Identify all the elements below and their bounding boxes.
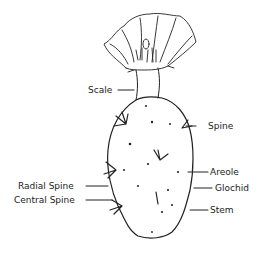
label-radial-spine: Radial Spine [18,181,74,191]
label-spine: Spine [208,121,233,131]
label-stem: Stem [210,205,234,215]
areoles [123,105,179,233]
label-central-spine: Central Spine [14,195,75,205]
flower [104,13,196,72]
ovary [136,68,160,100]
label-areole: Areole [210,167,239,177]
label-scale: Scale [88,85,112,95]
pad-outline [108,97,193,238]
label-glochid: Glochid [215,183,249,193]
